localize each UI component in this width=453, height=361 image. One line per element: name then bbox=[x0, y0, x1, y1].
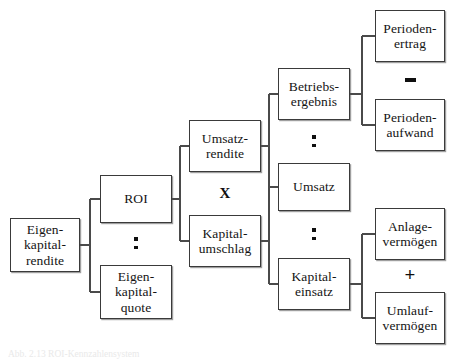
node-kapitalumschlag: Kapital- umschlag bbox=[189, 215, 261, 267]
node-eigenkapitalrendite: Eigen- kapital- rendite bbox=[10, 218, 80, 272]
operator-op-anlage-umlauf: + bbox=[398, 263, 422, 285]
operator-op-ergebnis-umsatz bbox=[302, 130, 326, 152]
node-label-umlaufvermoegen: Umlauf- vermögen bbox=[383, 303, 438, 333]
figure-caption: Abb. 2.13 ROI-Kennzahlensystem bbox=[8, 349, 448, 359]
node-betriebsergebnis: Betriebs- ergebnis bbox=[278, 68, 350, 120]
operator-op-umsatz-einsatz bbox=[302, 223, 326, 245]
operator-op-rendite-umschlag: X bbox=[213, 182, 237, 204]
divide-dot-lower bbox=[312, 237, 315, 240]
minus-bar bbox=[405, 78, 416, 82]
node-label-eigenkapitalrendite: Eigen- kapital- rendite bbox=[24, 222, 66, 267]
divide-dot-lower bbox=[134, 246, 137, 249]
node-label-anlagevermoegen: Anlage- vermögen bbox=[383, 219, 438, 249]
divide-dot-upper bbox=[312, 228, 315, 231]
node-periodenertrag: Perioden- ertrag bbox=[375, 10, 445, 62]
divide-dot-upper bbox=[312, 135, 315, 138]
node-label-eigenkapitalquote: Eigen- kapital- quote bbox=[115, 269, 157, 314]
conn-kapitaleinsatz bbox=[350, 234, 375, 318]
node-umsatzrendite: Umsatz- rendite bbox=[189, 120, 261, 172]
node-periodenaufwand: Perioden- aufwand bbox=[375, 99, 445, 151]
divide-dot-lower bbox=[312, 144, 315, 147]
node-kapitaleinsatz: Kapital- einsatz bbox=[278, 258, 350, 310]
conn-roi bbox=[172, 146, 189, 241]
conn-kapitalumschlag bbox=[261, 187, 278, 284]
roi-tree-diagram: Abb. 2.13 ROI-Kennzahlensystem Eigen- ka… bbox=[0, 0, 453, 361]
node-label-roi: ROI bbox=[124, 191, 148, 206]
divide-dot-upper bbox=[134, 237, 137, 240]
node-umsatz: Umsatz bbox=[278, 163, 350, 211]
conn-ekrendite bbox=[80, 199, 100, 292]
node-roi: ROI bbox=[100, 175, 172, 223]
node-label-betriebsergebnis: Betriebs- ergebnis bbox=[289, 79, 339, 109]
node-label-kapitalumschlag: Kapital- umschlag bbox=[199, 226, 252, 256]
node-label-umsatz: Umsatz bbox=[293, 179, 335, 194]
conn-betriebsergebnis bbox=[350, 36, 375, 125]
operator-symbol: + bbox=[405, 265, 416, 284]
node-label-periodenertrag: Perioden- ertrag bbox=[383, 21, 436, 51]
node-eigenkapitalquote: Eigen- kapital- quote bbox=[100, 265, 172, 319]
node-label-kapitaleinsatz: Kapital- einsatz bbox=[291, 269, 336, 299]
node-anlagevermoegen: Anlage- vermögen bbox=[375, 208, 445, 260]
conn-umsatzrendite bbox=[261, 94, 278, 187]
node-umlaufvermoegen: Umlauf- vermögen bbox=[375, 292, 445, 344]
node-label-periodenaufwand: Perioden- aufwand bbox=[383, 110, 436, 140]
node-label-umsatzrendite: Umsatz- rendite bbox=[202, 131, 248, 161]
operator-op-roi-ekquote bbox=[124, 232, 148, 254]
operator-symbol: X bbox=[220, 186, 231, 201]
operator-op-ertrag-aufwand bbox=[398, 69, 422, 91]
